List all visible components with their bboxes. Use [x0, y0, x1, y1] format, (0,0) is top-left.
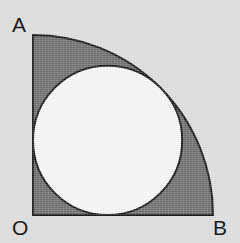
- vertex-label-a: A: [12, 14, 26, 35]
- quarter-circle-figure: [0, 0, 240, 243]
- vertex-label-o: O: [12, 217, 28, 238]
- inscribed-circle: [33, 66, 182, 215]
- figure-stage: A O B: [0, 0, 240, 243]
- vertex-label-b: B: [213, 217, 227, 238]
